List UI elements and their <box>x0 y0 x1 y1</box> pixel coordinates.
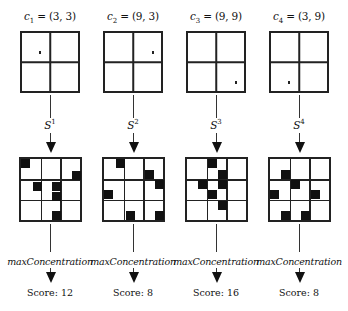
arrow-down-icon <box>129 142 139 153</box>
function-label: maxConcentration <box>247 256 348 267</box>
filled-cell <box>52 211 61 220</box>
filled-cell <box>21 159 30 168</box>
centroid-label: c1 = (3, 3) <box>8 10 92 25</box>
filled-cell <box>291 180 300 189</box>
centroid-marker <box>152 51 154 54</box>
connector-line <box>133 224 134 252</box>
column-1: c1 = (3, 3)S1maxConcentrationScore: 12 <box>8 0 92 311</box>
strategy-label: S3 <box>201 118 231 131</box>
filled-cell <box>281 211 290 220</box>
connector-line <box>216 95 217 118</box>
filled-cell <box>301 211 310 220</box>
strategy-label: S2 <box>118 118 148 131</box>
arrow-down-icon <box>46 142 56 153</box>
connector-line <box>50 224 51 252</box>
placement-grid <box>102 157 165 222</box>
placement-grid <box>185 157 248 222</box>
filled-cell <box>155 211 164 220</box>
filled-cell <box>218 170 227 179</box>
centroid-label: c4 = (3, 9) <box>257 10 341 25</box>
centroid-label: c2 = (9, 3) <box>91 10 175 25</box>
quadrant-grid <box>269 31 329 93</box>
filled-cell <box>218 201 227 210</box>
column-2: c2 = (9, 3)S2maxConcentrationScore: 8 <box>91 0 175 311</box>
filled-cell <box>270 190 279 199</box>
placement-grid <box>19 157 82 222</box>
connector-line <box>299 95 300 118</box>
arrow-down-icon <box>129 272 139 283</box>
filled-cell <box>126 211 135 220</box>
arrow-down-icon <box>46 272 56 283</box>
centroid-marker <box>39 51 41 54</box>
centroid-label: c3 = (9, 9) <box>174 10 258 25</box>
filled-cell <box>311 190 320 199</box>
quadrant-grid <box>20 31 80 93</box>
connector-line <box>50 95 51 118</box>
column-4: c4 = (3, 9)S4maxConcentrationScore: 8 <box>257 0 341 311</box>
filled-cell <box>72 171 81 180</box>
filled-cell <box>104 190 113 199</box>
filled-cell <box>52 192 61 201</box>
filled-cell <box>155 180 164 189</box>
quadrant-grid <box>103 31 163 93</box>
filled-cell <box>198 180 207 189</box>
column-3: c3 = (9, 9)S3maxConcentrationScore: 16 <box>174 0 258 311</box>
filled-cell <box>281 170 290 179</box>
connector-line <box>299 224 300 252</box>
connector-line <box>216 224 217 252</box>
filled-cell <box>208 159 217 168</box>
placement-grid <box>268 157 331 222</box>
strategy-label: S1 <box>35 118 65 131</box>
arrow-down-icon <box>212 142 222 153</box>
arrow-down-icon <box>212 272 222 283</box>
filled-cell <box>33 182 42 191</box>
filled-cell <box>116 159 125 168</box>
filled-cell <box>218 180 227 189</box>
filled-cell <box>52 182 61 191</box>
score-label: Score: 8 <box>257 287 341 298</box>
score-label: Score: 12 <box>8 287 92 298</box>
strategy-label: S4 <box>284 118 314 131</box>
centroid-marker <box>235 81 237 84</box>
arrow-down-icon <box>295 272 305 283</box>
score-label: Score: 8 <box>91 287 175 298</box>
centroid-marker <box>288 81 290 84</box>
filled-cell <box>208 190 217 199</box>
filled-cell <box>145 170 154 179</box>
score-label: Score: 16 <box>174 287 258 298</box>
arrow-down-icon <box>295 142 305 153</box>
quadrant-grid <box>186 31 246 93</box>
connector-line <box>133 95 134 118</box>
